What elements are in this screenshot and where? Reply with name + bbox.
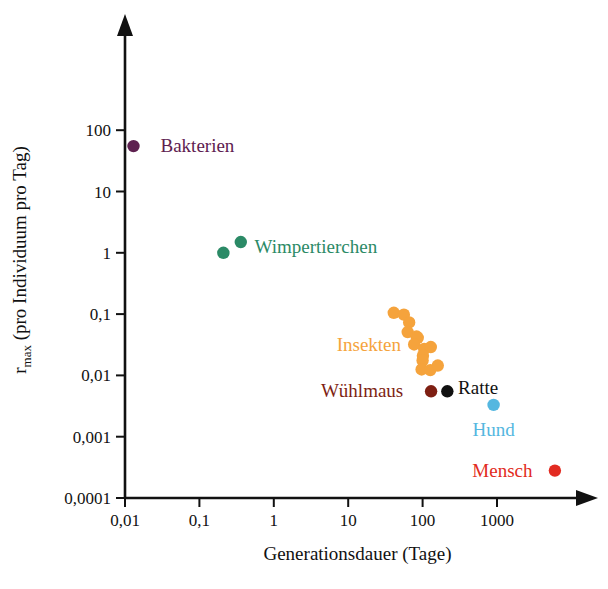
data-point[interactable]: [127, 140, 139, 152]
data-point[interactable]: [235, 236, 247, 248]
y-tick-label: 0,1: [90, 305, 111, 324]
x-axis-ticks: 0,010,11101001000: [110, 498, 514, 530]
x-axis-title: Generationsdauer (Tage): [263, 543, 451, 565]
series-label-bakterien: Bakterien: [161, 135, 235, 156]
series-label-insekten: Insekten: [337, 334, 402, 355]
x-tick-label: 10: [340, 511, 357, 530]
series-label-wimpertierchen: Wimpertierchen: [254, 236, 377, 257]
y-axis-title-subscript: max: [19, 345, 34, 368]
data-point[interactable]: [425, 385, 437, 397]
axis-lines: [117, 14, 598, 506]
plot-canvas: 0,00010,0010,010,1110100 0,010,111010010…: [0, 0, 608, 589]
x-axis-arrowhead: [576, 490, 598, 506]
y-tick-label: 10: [94, 183, 111, 202]
series-labels-layer: BakterienWimpertierchenInsektenWühlmausR…: [161, 135, 533, 480]
y-tick-label: 0,01: [81, 366, 111, 385]
y-tick-label: 100: [86, 121, 112, 140]
y-axis-ticks: 0,00010,0010,010,1110100: [64, 121, 125, 508]
y-axis-arrowhead: [117, 14, 133, 36]
y-tick-label: 0,0001: [64, 489, 111, 508]
svg-text:rmax (pro Individuum pro Tag): rmax (pro Individuum pro Tag): [9, 146, 34, 374]
series-label-mensch: Mensch: [472, 460, 533, 481]
data-point[interactable]: [487, 399, 499, 411]
series-label-hund: Hund: [472, 419, 515, 440]
data-point[interactable]: [432, 359, 444, 371]
x-tick-label: 100: [410, 511, 436, 530]
data-point[interactable]: [441, 385, 453, 397]
y-axis-title-rest: (pro Individuum pro Tag): [9, 146, 31, 345]
x-tick-label: 1: [270, 511, 279, 530]
series-label-ratte: Ratte: [458, 377, 498, 398]
data-point[interactable]: [217, 247, 229, 259]
x-tick-label: 0,01: [110, 511, 140, 530]
data-point[interactable]: [549, 464, 561, 476]
x-tick-label: 1000: [480, 511, 514, 530]
y-tick-label: 1: [103, 244, 112, 263]
series-label-whlmaus: Wühlmaus: [321, 380, 403, 401]
y-tick-label: 0,001: [73, 428, 111, 447]
x-tick-label: 0,1: [189, 511, 210, 530]
scatter-chart: 0,00010,0010,010,1110100 0,010,111010010…: [0, 0, 608, 589]
y-axis-title: rmax (pro Individuum pro Tag): [9, 146, 34, 374]
